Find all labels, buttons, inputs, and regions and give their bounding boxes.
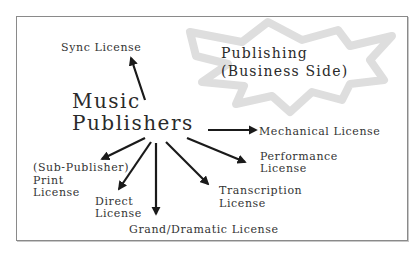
label-mechanical-license: Mechanical License	[259, 125, 380, 138]
arrow-to-print	[102, 138, 145, 159]
label-performance-line2: License	[260, 162, 307, 175]
label-print-line2: License	[33, 186, 80, 199]
arrow-to-transcription	[166, 142, 208, 184]
label-transcription-line1: Transcription	[219, 184, 302, 197]
label-transcription-line2: License	[219, 197, 266, 210]
star-label-line2: (Business Side)	[221, 63, 348, 80]
star-label-line1: Publishing	[221, 45, 308, 62]
label-print-sub-publisher: (Sub-Publisher)	[33, 161, 129, 174]
center-node-line1: Music	[72, 90, 141, 112]
label-direct-line2: License	[95, 207, 142, 220]
label-grand-dramatic-license: Grand/Dramatic License	[129, 223, 279, 236]
arrow-to-performance	[187, 138, 245, 162]
label-sync-license: Sync License	[61, 41, 141, 54]
center-node-line2: Publishers	[72, 112, 194, 134]
